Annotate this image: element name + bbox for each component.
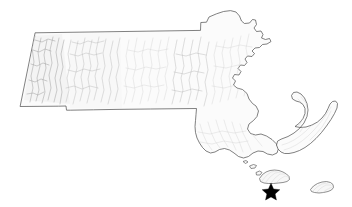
state-relief-map-figure — [0, 0, 352, 207]
massachusetts-map-svg — [0, 0, 352, 207]
